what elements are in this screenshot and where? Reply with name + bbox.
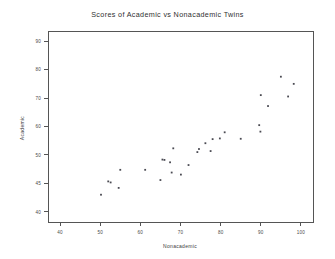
data-point-series: [100, 76, 295, 196]
data-point: [293, 83, 295, 85]
y-tick-label: 60: [35, 124, 41, 129]
plot-frame: [48, 31, 313, 222]
y-tick-label: 80: [35, 67, 41, 72]
data-point: [100, 194, 102, 196]
data-point: [260, 131, 262, 133]
data-point: [240, 138, 242, 140]
y-tick-label: 45: [35, 181, 41, 186]
y-tick-label: 40: [35, 210, 41, 215]
x-tick-label: 100: [297, 230, 306, 235]
data-point: [224, 131, 226, 133]
data-point: [144, 169, 146, 171]
data-point: [172, 147, 174, 149]
data-point: [110, 182, 112, 184]
data-point: [188, 164, 190, 166]
data-point: [287, 96, 289, 98]
data-point: [107, 181, 109, 183]
data-point: [196, 151, 198, 153]
data-point: [258, 124, 260, 126]
data-point: [180, 174, 182, 176]
plot-canvas: 405060708090100 40455060708090 Nonacadem…: [0, 0, 335, 259]
data-point: [267, 105, 269, 107]
scatter-plot-figure: Scores of Academic vs Nonacademic Twins …: [0, 0, 335, 259]
x-tick-label: 40: [57, 230, 63, 235]
x-tick-label: 90: [258, 230, 264, 235]
data-point: [210, 150, 212, 152]
data-point: [280, 76, 282, 78]
data-point: [164, 159, 166, 161]
data-point: [160, 179, 162, 181]
data-point: [162, 159, 164, 161]
data-point: [204, 142, 206, 144]
y-axis-title: Academic: [19, 116, 25, 141]
data-point: [118, 187, 120, 189]
y-tick-label: 70: [35, 96, 41, 101]
data-point: [169, 161, 171, 163]
data-point: [171, 172, 173, 174]
x-tick-label: 50: [97, 230, 103, 235]
y-axis-ticks: 40455060708090: [35, 39, 48, 215]
x-axis-title: Nonacademic: [163, 243, 197, 249]
data-point: [219, 138, 221, 140]
data-point: [119, 169, 121, 171]
data-point: [260, 94, 262, 96]
y-tick-label: 50: [35, 153, 41, 158]
y-tick-label: 90: [35, 39, 41, 44]
data-point: [198, 148, 200, 150]
x-tick-label: 80: [218, 230, 224, 235]
x-tick-label: 70: [178, 230, 184, 235]
x-axis-ticks: 405060708090100: [57, 222, 305, 235]
x-tick-label: 60: [138, 230, 144, 235]
data-point: [212, 138, 214, 140]
